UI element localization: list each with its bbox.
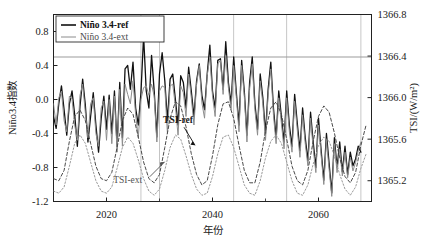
right-axis-tick-label-3: 1365.6 [378,134,407,145]
left-axis-tick-label-4: -0.8 [32,162,49,173]
x-axis-tick-label-0: 2020 [96,209,117,220]
nino34-tsi-timeseries-chart: 0.80.40.0-0.4-0.8-1.2Niño3.4指数1366.81366… [0,0,427,247]
left-axis-tick-label-3: -0.4 [32,128,49,139]
chart-figure: 0.80.40.0-0.4-0.8-1.2Niño3.4指数1366.81366… [0,0,427,247]
x-axis-title: 年份 [203,224,224,236]
right-axis-title: TSI/(W/m²) [408,83,420,133]
right-axis-tick-label-1: 1366.4 [378,51,408,62]
series-line-tsi-ext [54,135,367,195]
left-axis-tick-label-0: 0.8 [35,26,48,37]
annotation-tsi-ext: TSI-ext [113,175,142,185]
series-line-ni-o-3-4-ref [54,36,361,193]
right-axis-tick-label-0: 1366.8 [378,9,407,20]
legend-label-0: Niño 3.4-ref [80,20,129,30]
left-axis-tick-label-1: 0.4 [35,60,49,71]
legend-label-1: Niño 3.4-ext [80,32,128,42]
annotation-tsi-ref: TSI-ref [163,115,194,125]
annotation-arrowhead-tsi-ext [160,162,165,167]
annotation-arrowhead-tsi-ref [190,141,195,145]
x-axis-tick-label-2: 2060 [308,209,329,220]
left-axis-tick-label-2: 0.0 [35,94,48,105]
right-axis-tick-label-4: 1365.2 [378,175,407,186]
x-axis-tick-label-1: 2040 [202,209,223,220]
right-axis-tick-label-2: 1366.0 [378,92,407,103]
left-axis-tick-label-5: -1.2 [32,196,49,207]
left-axis-title: Niño3.4指数 [6,80,18,135]
